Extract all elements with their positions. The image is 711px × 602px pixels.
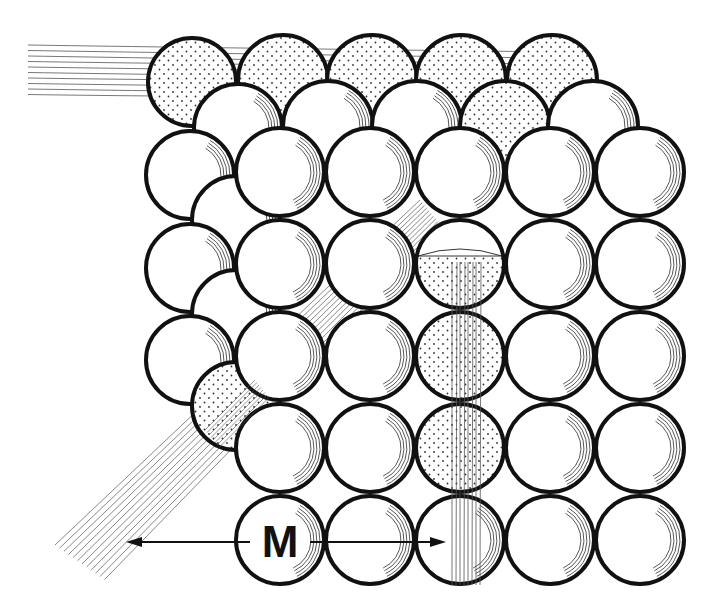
atom bbox=[326, 128, 414, 216]
atom bbox=[236, 220, 324, 308]
atom bbox=[506, 496, 594, 584]
atom bbox=[596, 312, 684, 400]
atom bbox=[326, 404, 414, 492]
atom bbox=[506, 404, 594, 492]
dimension-label-m: M bbox=[255, 520, 305, 564]
atom bbox=[596, 128, 684, 216]
atom bbox=[236, 312, 324, 400]
atom bbox=[506, 220, 594, 308]
atom bbox=[596, 496, 684, 584]
atom bbox=[596, 404, 684, 492]
lattice-svg bbox=[0, 0, 711, 602]
atom bbox=[326, 220, 414, 308]
atom bbox=[506, 312, 594, 400]
atom bbox=[236, 128, 324, 216]
atom bbox=[326, 312, 414, 400]
atom bbox=[506, 128, 594, 216]
lattice-diagram: M bbox=[0, 0, 711, 602]
atom bbox=[596, 220, 684, 308]
atom bbox=[326, 496, 414, 584]
atom bbox=[416, 128, 504, 216]
